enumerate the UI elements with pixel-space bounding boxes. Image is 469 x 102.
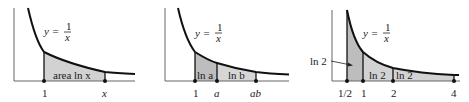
region-label-ln-2-a: ln 2 [369, 69, 386, 81]
tick-dot [391, 79, 395, 83]
tick-dot [215, 79, 219, 83]
equation-lhs: y = [43, 25, 59, 37]
tick-label-x: x [101, 87, 107, 99]
panel-ln-2: y = 1 x ln 2 ln 2 ln 2 1/2 1 2 4 [310, 10, 460, 99]
panel-ln-ab: y = 1 x ln a ln b 1 a ab [165, 8, 289, 99]
equation-denominator: x [383, 32, 389, 44]
tick-label-2: 2 [391, 87, 397, 99]
tick-label-ab: ab [250, 87, 262, 99]
callout-label-ln-2: ln 2 [310, 55, 327, 67]
equation-denominator: x [215, 32, 221, 44]
panel-area-ln-x: y = 1 x area ln x 1 x [14, 8, 135, 99]
tick-label-1: 1 [361, 87, 367, 99]
region-label-ln-a: ln a [197, 69, 213, 81]
tick-dot [42, 79, 46, 83]
tick-dot [345, 79, 349, 83]
log-area-diagram: y = 1 x area ln x 1 x y = 1 x ln a ln b … [0, 0, 469, 102]
equation-lhs: y = [194, 27, 210, 39]
tick-label-1: 1 [193, 87, 199, 99]
tick-dot [103, 79, 107, 83]
region-label-ln-b: ln b [228, 69, 245, 81]
tick-label-4: 4 [451, 87, 457, 99]
region-label-ln-2-b: ln 2 [396, 69, 413, 81]
tick-label-half: 1/2 [338, 87, 352, 99]
tick-dot [361, 79, 365, 83]
equation-lhs: y = [362, 27, 378, 39]
tick-dot [452, 79, 456, 83]
equation-denominator: x [64, 31, 70, 43]
tick-label-1: 1 [42, 87, 48, 99]
region-label: area ln x [53, 69, 91, 81]
tick-label-a: a [214, 87, 220, 99]
tick-dot [254, 79, 258, 83]
